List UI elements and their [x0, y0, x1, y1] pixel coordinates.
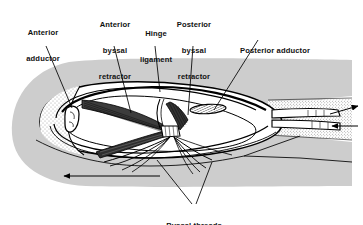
label-anterior-adductor-line2: adductor — [10, 55, 76, 64]
label-posterior-adductor-line1: Posterior adductor — [225, 47, 325, 56]
exhalant-siphon — [272, 109, 340, 119]
label-anterior-byssal-retractor-line3: retractor — [82, 73, 148, 82]
label-posterior-byssal-retractor-line2: byssal — [163, 47, 225, 56]
label-anterior-adductor-line1: Anterior — [10, 29, 76, 38]
label-posterior-byssal-retractor-line1: Posterior — [163, 21, 225, 30]
label-anterior-adductor: Anterior adductor — [10, 12, 76, 72]
label-posterior-byssal-retractor: Posterior byssal retractor — [163, 4, 225, 90]
label-byssal-threads: Byssal threads — [148, 205, 240, 225]
label-posterior-byssal-retractor-line3: retractor — [163, 73, 225, 82]
label-byssal-threads-line1: Byssal threads — [148, 222, 240, 225]
byssus-stem — [161, 126, 180, 137]
label-posterior-adductor: Posterior adductor — [225, 30, 325, 64]
